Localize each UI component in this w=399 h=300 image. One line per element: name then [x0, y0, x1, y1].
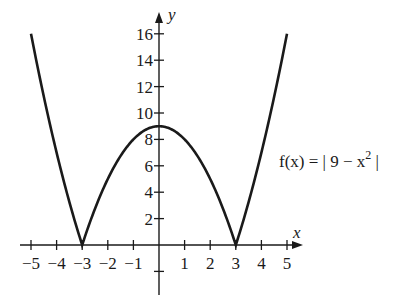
x-tick-label: −1	[124, 254, 142, 273]
x-tick-label: −5	[22, 254, 40, 273]
y-tick-label: 10	[136, 104, 153, 123]
function-plot: −5−4−3−2−112345246810121416 y x f(x) = |…	[0, 0, 399, 300]
function-label-prefix: f(x) = | 9 − x	[279, 152, 366, 171]
x-tick-label: 5	[283, 254, 292, 273]
x-axis-label: x	[292, 223, 301, 242]
x-tick-label: 3	[232, 254, 241, 273]
tick-labels: −5−4−3−2−112345246810121416	[22, 25, 291, 273]
x-tick-label: −2	[99, 254, 117, 273]
y-axis-arrow-icon	[155, 12, 163, 23]
x-tick-label: −4	[48, 254, 67, 273]
y-tick-label: 16	[136, 25, 153, 44]
y-tick-label: 2	[145, 210, 154, 229]
y-tick-label: 4	[145, 183, 154, 202]
y-tick-label: 14	[136, 51, 154, 70]
function-label: f(x) = | 9 − x2 |	[279, 148, 379, 171]
x-axis-arrow-icon	[292, 241, 303, 249]
x-tick-label: 1	[180, 254, 189, 273]
y-tick-label: 6	[145, 157, 154, 176]
x-tick-label: 4	[257, 254, 266, 273]
y-tick-label: 8	[145, 130, 154, 149]
x-tick-label: −3	[73, 254, 91, 273]
y-axis-label: y	[166, 5, 176, 24]
x-tick-label: 2	[206, 254, 215, 273]
function-label-suffix: |	[371, 152, 379, 171]
y-tick-label: 12	[136, 78, 153, 97]
